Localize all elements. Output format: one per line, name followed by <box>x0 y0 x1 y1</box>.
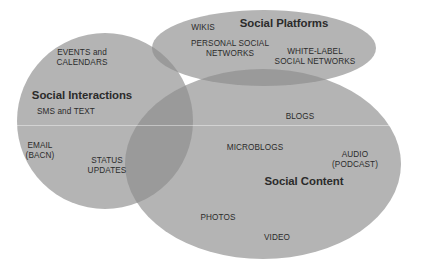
item-blogs: BLOGS <box>286 112 315 122</box>
item-wikis: WIKIS <box>191 23 215 33</box>
item-events-and-calendars: EVENTS and CALENDARS <box>57 48 108 67</box>
item-status-updates: STATUS UPDATES <box>88 156 127 175</box>
item-sms-and-text: SMS and TEXT <box>37 107 95 117</box>
venn-diagram: Social Interactions EVENTS and CALENDARS… <box>0 0 424 275</box>
item-audio-podcast: AUDIO (PODCAST) <box>332 150 378 169</box>
set-title-social-content: Social Content <box>264 175 343 188</box>
item-photos: PHOTOS <box>200 213 235 223</box>
set-title-social-interactions: Social Interactions <box>32 89 132 102</box>
item-email-bacn: EMAIL (BACN) <box>26 141 55 160</box>
item-personal-social-networks: PERSONAL SOCIAL NETWORKS <box>191 39 269 58</box>
set-title-social-platforms: Social Platforms <box>240 17 328 30</box>
item-microblogs: MICROBLOGS <box>227 143 284 153</box>
item-white-label-social-networks: WHITE-LABEL SOCIAL NETWORKS <box>275 47 356 66</box>
venn-labels: Social Interactions EVENTS and CALENDARS… <box>0 0 424 275</box>
item-video: VIDEO <box>264 233 290 243</box>
